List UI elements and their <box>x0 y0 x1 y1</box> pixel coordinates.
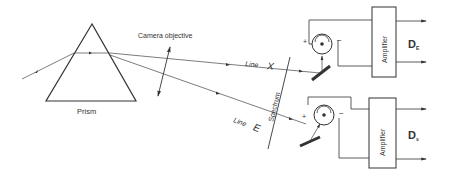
line-x-label: Line <box>245 60 259 68</box>
top-plus-sign: + <box>303 38 307 45</box>
spectrum-label: Spectrum <box>267 91 282 122</box>
top-mirror <box>312 66 330 80</box>
bottom-output-label: Ds <box>408 129 419 142</box>
top-output-label: DE <box>408 38 420 51</box>
line-e-letter: E <box>252 122 262 135</box>
bottom-amplifier-label: Amplifier <box>379 128 387 156</box>
bottom-photocell <box>314 105 334 125</box>
top-amplifier-label: Amplifier <box>381 35 389 63</box>
camera-objective-lens <box>158 47 170 96</box>
line-x-letter: X <box>266 60 275 72</box>
prism <box>46 24 136 101</box>
bottom-plus-sign: + <box>302 113 306 120</box>
line-e-label: Line <box>233 116 248 127</box>
camera-objective-label: Camera objective <box>138 32 193 40</box>
prism-label: Prism <box>77 107 96 116</box>
incoming-ray <box>22 52 110 80</box>
spectrometer-diagram: Prism Camera objective Line X Line E Spe… <box>0 0 449 179</box>
bottom-minus-sign: − <box>339 109 344 118</box>
top-photocell <box>312 34 332 54</box>
bottom-mirror <box>300 137 320 146</box>
